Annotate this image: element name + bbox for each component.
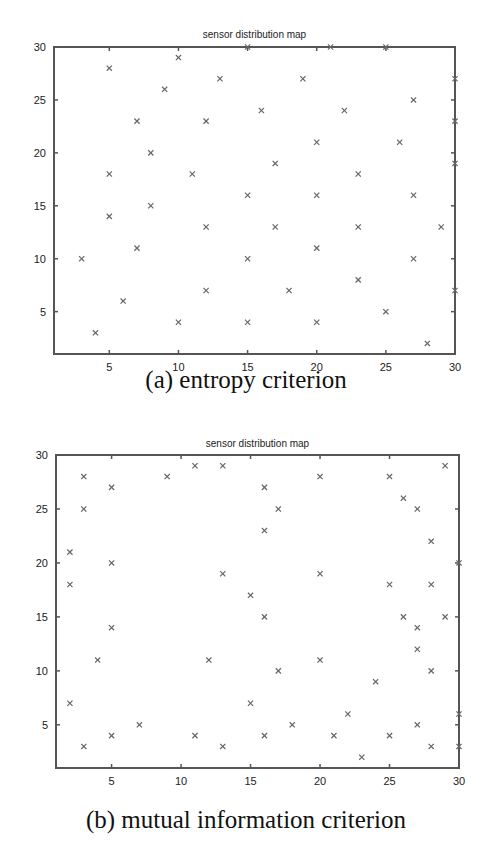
sensor-marker [220, 744, 225, 749]
sensor-marker [317, 571, 322, 576]
sensor-marker [192, 463, 197, 468]
y-tick-label: 10 [36, 665, 48, 677]
sensor-marker [373, 679, 378, 684]
sensor-marker [443, 463, 448, 468]
scatter-chart-mutual-information: sensor distribution map51015202530510152… [0, 0, 492, 820]
sensor-marker [429, 744, 434, 749]
x-tick-label: 10 [175, 775, 187, 787]
sensor-marker [429, 668, 434, 673]
sensor-marker [137, 722, 142, 727]
x-tick-label: 15 [244, 775, 256, 787]
sensor-marker [248, 701, 253, 706]
sensor-marker [81, 744, 86, 749]
sensor-marker [317, 474, 322, 479]
sensor-marker [387, 733, 392, 738]
sensor-marker [290, 722, 295, 727]
y-tick-label: 15 [36, 611, 48, 623]
sensor-marker [109, 485, 114, 490]
sensor-marker [262, 485, 267, 490]
sensor-marker [415, 625, 420, 630]
sensor-marker [206, 657, 211, 662]
plot-frame [56, 455, 459, 768]
sensor-marker [387, 474, 392, 479]
sensor-marker [387, 582, 392, 587]
sensor-marker [401, 496, 406, 501]
sensor-marker [276, 506, 281, 511]
caption-mutual-information: (b) mutual information criterion [0, 806, 492, 834]
sensor-marker [192, 733, 197, 738]
sensor-marker [359, 755, 364, 760]
sensor-marker [276, 668, 281, 673]
sensor-marker [109, 625, 114, 630]
x-tick-label: 30 [453, 775, 465, 787]
y-tick-label: 5 [42, 719, 48, 731]
chart-panel-mutual-information: sensor distribution map51015202530510152… [0, 0, 492, 868]
sensor-marker [165, 474, 170, 479]
sensor-marker [95, 657, 100, 662]
sensor-marker [415, 647, 420, 652]
sensor-marker [262, 614, 267, 619]
sensor-marker [345, 711, 350, 716]
sensor-marker [109, 733, 114, 738]
chart-title: sensor distribution map [206, 438, 310, 449]
sensor-marker [220, 571, 225, 576]
sensor-marker [67, 582, 72, 587]
sensor-marker [443, 614, 448, 619]
sensor-marker [415, 722, 420, 727]
sensor-marker [415, 506, 420, 511]
sensor-marker [262, 528, 267, 533]
sensor-marker [429, 582, 434, 587]
sensor-marker [109, 560, 114, 565]
y-tick-label: 30 [36, 449, 48, 461]
sensor-marker [401, 614, 406, 619]
sensor-marker [248, 593, 253, 598]
sensor-marker [331, 733, 336, 738]
x-tick-label: 25 [383, 775, 395, 787]
sensor-marker [81, 506, 86, 511]
sensor-marker [220, 463, 225, 468]
sensor-marker [81, 474, 86, 479]
sensor-marker [67, 550, 72, 555]
sensor-marker [262, 733, 267, 738]
x-tick-label: 5 [109, 775, 115, 787]
y-tick-label: 20 [36, 557, 48, 569]
y-tick-label: 25 [36, 503, 48, 515]
sensor-marker [67, 701, 72, 706]
x-tick-label: 20 [314, 775, 326, 787]
sensor-marker [429, 539, 434, 544]
sensor-marker [317, 657, 322, 662]
